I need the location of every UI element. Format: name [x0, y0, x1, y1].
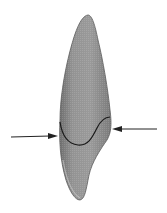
tooth-diagram-svg [0, 0, 167, 213]
right-arrow [112, 126, 157, 132]
left-arrow [11, 133, 58, 139]
tooth-outline [60, 15, 111, 200]
tooth-diagram [0, 0, 167, 213]
